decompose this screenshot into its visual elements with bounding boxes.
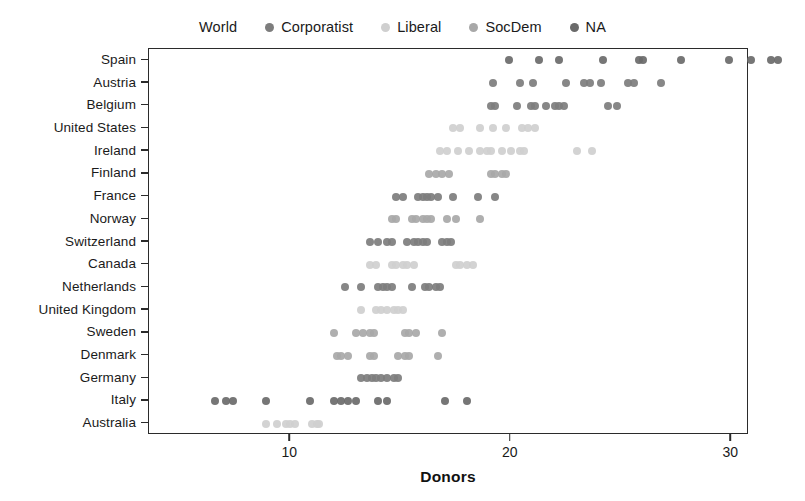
scatter-point xyxy=(597,79,605,87)
scatter-point xyxy=(405,352,413,360)
scatter-point xyxy=(725,56,733,64)
scatter-point xyxy=(520,147,528,155)
scatter-point xyxy=(410,261,418,269)
scatter-point xyxy=(394,374,402,382)
scatter-point xyxy=(454,147,462,155)
y-tick-label: Austria xyxy=(93,75,141,90)
y-tick-mark xyxy=(141,127,148,128)
scatter-point xyxy=(262,420,270,428)
y-tick-switzerland: Switzerland xyxy=(65,233,148,249)
scatter-point xyxy=(352,397,360,405)
scatter-point xyxy=(372,261,380,269)
y-tick-mark xyxy=(141,308,148,309)
y-tick-spain: Spain xyxy=(101,51,148,67)
legend-item-liberal[interactable]: Liberal xyxy=(381,19,441,35)
x-tick-label: 10 xyxy=(281,444,297,460)
scatter-point xyxy=(630,79,638,87)
y-tick-label: Ireland xyxy=(94,143,141,158)
scatter-point xyxy=(531,124,539,132)
scatter-point xyxy=(474,193,482,201)
scatter-point xyxy=(586,79,594,87)
y-tick-mark xyxy=(141,399,148,400)
legend-dot-icon xyxy=(381,23,390,32)
scatter-point xyxy=(476,215,484,223)
x-tick-mark xyxy=(288,434,289,441)
scatter-point xyxy=(436,283,444,291)
scatter-point xyxy=(487,147,495,155)
y-tick-italy: Italy xyxy=(111,392,148,408)
y-tick-label: Netherlands xyxy=(62,279,141,294)
scatter-point xyxy=(374,397,382,405)
scatter-point xyxy=(573,147,581,155)
y-tick-label: Norway xyxy=(90,211,141,226)
scatter-point xyxy=(465,147,473,155)
scatter-point xyxy=(456,124,464,132)
y-tick-mark xyxy=(141,218,148,219)
scatter-point xyxy=(513,102,521,110)
y-tick-mark xyxy=(141,263,148,264)
legend-item-corporatist[interactable]: Corporatist xyxy=(265,19,353,35)
scatter-point xyxy=(657,79,665,87)
scatter-point xyxy=(498,147,506,155)
y-tick-label: Finland xyxy=(91,165,141,180)
scatter-point xyxy=(315,420,323,428)
scatter-point xyxy=(516,79,524,87)
chart-root: World CorporatistLiberalSocDemNA SpainAu… xyxy=(0,0,805,501)
scatter-point xyxy=(357,283,365,291)
legend-item-na[interactable]: NA xyxy=(570,19,606,35)
y-tick-mark xyxy=(141,81,148,82)
legend-item-label: Liberal xyxy=(397,19,441,35)
y-tick-label: United Kingdom xyxy=(39,302,141,317)
scatter-point xyxy=(774,56,782,64)
y-axis: SpainAustriaBelgiumUnited StatesIrelandF… xyxy=(0,48,148,434)
scatter-point xyxy=(306,397,314,405)
y-tick-label: United States xyxy=(54,120,141,135)
y-tick-finland: Finland xyxy=(91,165,148,181)
y-tick-germany: Germany xyxy=(80,369,148,385)
y-tick-label: Germany xyxy=(80,370,141,385)
scatter-point xyxy=(677,56,685,64)
legend-item-label: SocDem xyxy=(485,19,541,35)
scatter-point xyxy=(639,56,647,64)
scatter-point xyxy=(562,79,570,87)
y-tick-label: Canada xyxy=(88,256,141,271)
scatter-point xyxy=(443,147,451,155)
y-tick-mark xyxy=(141,104,148,105)
legend-dot-icon xyxy=(570,23,579,32)
scatter-point xyxy=(529,79,537,87)
scatter-point xyxy=(399,306,407,314)
legend-item-socdem[interactable]: SocDem xyxy=(469,19,541,35)
y-tick-france: France xyxy=(93,188,148,204)
scatter-point xyxy=(383,397,391,405)
y-tick-norway: Norway xyxy=(90,210,148,226)
scatter-point xyxy=(330,329,338,337)
scatter-point xyxy=(344,397,352,405)
scatter-point xyxy=(489,124,497,132)
x-tick-label: 20 xyxy=(502,444,518,460)
y-tick-mark xyxy=(141,422,148,423)
y-tick-mark xyxy=(141,172,148,173)
scatter-point xyxy=(341,283,349,291)
scatter-point xyxy=(291,420,299,428)
scatter-point xyxy=(434,352,442,360)
scatter-point xyxy=(388,283,396,291)
legend-title: World xyxy=(199,19,237,35)
scatter-point xyxy=(344,352,352,360)
scatter-point xyxy=(599,56,607,64)
scatter-point xyxy=(427,215,435,223)
x-tick-20: 20 xyxy=(502,434,518,460)
scatter-point xyxy=(535,56,543,64)
y-tick-ireland: Ireland xyxy=(94,142,148,158)
scatter-point xyxy=(447,238,455,246)
scatter-point xyxy=(370,329,378,337)
scatter-point xyxy=(412,329,420,337)
scatter-point xyxy=(392,215,400,223)
chart-legend: World CorporatistLiberalSocDemNA xyxy=(0,14,805,40)
y-tick-denmark: Denmark xyxy=(81,347,148,363)
y-tick-label: Switzerland xyxy=(65,234,141,249)
scatter-point xyxy=(613,102,621,110)
scatter-point xyxy=(502,124,510,132)
scatter-point xyxy=(463,397,471,405)
y-tick-austria: Austria xyxy=(93,74,148,90)
legend-title-label: World xyxy=(199,19,237,35)
